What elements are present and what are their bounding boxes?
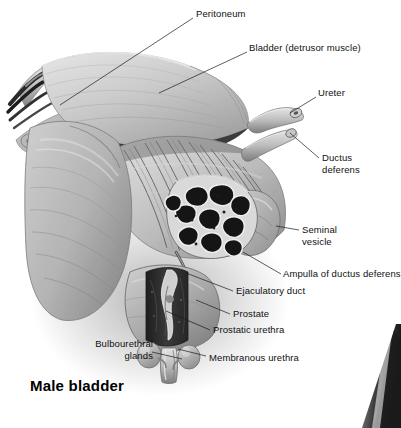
label-peritoneum: Peritoneum (196, 8, 246, 20)
label-membranous-urethra: Membranous urethra (209, 352, 299, 364)
male-bladder-illustration (0, 0, 401, 428)
label-seminal-vesicle: Seminal vesicle (302, 224, 337, 248)
label-ductus-deferens: Ductus deferens (322, 152, 360, 176)
label-prostate: Prostate (233, 308, 269, 320)
label-ejaculatory-duct: Ejaculatory duct (236, 285, 305, 297)
label-bladder-detrusor-muscle: Bladder (detrusor muscle) (249, 42, 361, 54)
label-ureter: Ureter (318, 87, 345, 99)
label-prostatic-urethra: Prostatic urethra (213, 324, 284, 336)
figure-title: Male bladder (30, 377, 124, 394)
label-ampulla-of-ductus-deferens: Ampulla of ductus deferens (283, 268, 401, 280)
prostate-cut-window (146, 268, 188, 347)
label-bulbourethral-glands: Bulbourethral glands (71, 338, 153, 362)
membranous-urethra (161, 348, 178, 384)
seminal-vesicle (165, 175, 257, 258)
